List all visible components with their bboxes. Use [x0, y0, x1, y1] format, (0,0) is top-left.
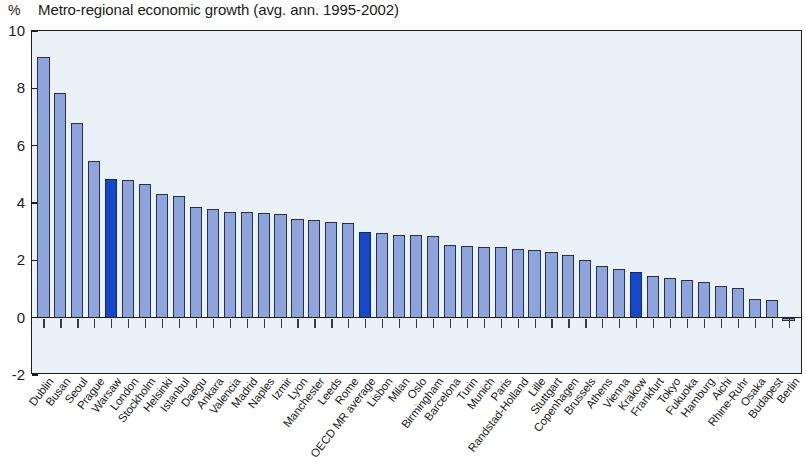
y-tick-label: 4	[0, 195, 25, 210]
y-tick-label: 6	[0, 137, 25, 152]
y-tick-label: 0	[0, 309, 25, 324]
x-axis-labels: DublinBusanSeoulPragueWarsawLondonStockh…	[0, 376, 806, 476]
y-tick-label: 2	[0, 252, 25, 267]
y-tick-label: 10	[0, 23, 25, 38]
chart-figure: % Metro-regional economic growth (avg. a…	[0, 0, 806, 476]
y-tick-label: 8	[0, 80, 25, 95]
